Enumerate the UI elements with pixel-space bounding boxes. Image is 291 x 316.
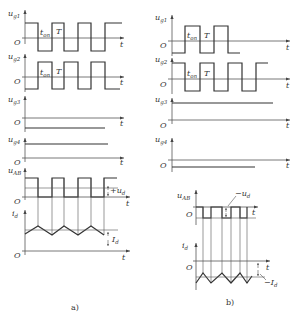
t-axis-label: t xyxy=(266,263,270,272)
id-plot-a: id Id O t xyxy=(12,209,130,262)
ug4-plot-b: ug4 O t xyxy=(155,135,290,172)
ug3-label: ug3 xyxy=(155,95,168,106)
t-axis-label: t xyxy=(252,208,256,217)
id-label: id xyxy=(12,209,19,219)
origin-label: O xyxy=(160,41,167,50)
t-axis-label: t xyxy=(120,119,124,128)
ton-label: ton xyxy=(40,68,51,78)
ug4-label: ug4 xyxy=(155,135,168,146)
ug2-plot-b: ug2 O t ton T xyxy=(155,55,290,94)
origin-label: O xyxy=(160,80,167,89)
t-axis-label: t xyxy=(120,158,124,167)
t-axis-label: t xyxy=(286,121,290,130)
ug3-plot-b: ug3 O t xyxy=(155,95,290,130)
period-label: T xyxy=(204,31,210,40)
ton-label: ton xyxy=(187,31,198,41)
ug2-label: ug2 xyxy=(8,52,21,63)
t-axis-label: t xyxy=(122,253,126,262)
origin-label: O xyxy=(160,121,167,130)
caption-a: a) xyxy=(71,303,79,312)
origin-label: O xyxy=(14,197,21,206)
panel-b: ug1 O t ton T ug2 O t ton T ug3 O t xyxy=(155,13,290,307)
id-plot-b: id −Id O t xyxy=(182,241,278,290)
guide-lines-a xyxy=(38,178,104,235)
period-label: T xyxy=(204,69,210,78)
ud-label: −ud xyxy=(235,189,251,199)
ud-label: +ud xyxy=(110,186,126,196)
origin-label: O xyxy=(14,38,21,47)
ug1-plot-b: ug1 O t ton T xyxy=(155,13,290,56)
uab-plot-a: uAB +ud O t xyxy=(8,166,130,208)
uab-label: uAB xyxy=(177,191,190,201)
t-axis-label: t xyxy=(286,43,290,52)
ug4-plot-a: ug4 O t xyxy=(8,135,124,167)
t-axis-label: t xyxy=(286,81,290,90)
ug4-label: ug4 xyxy=(8,135,21,146)
caption-b: b) xyxy=(226,298,234,307)
ug3-plot-a: ug3 O t xyxy=(8,95,124,132)
t-axis-label: t xyxy=(126,199,130,208)
ug1-plot-a: ug1 O t ton T xyxy=(8,9,124,51)
origin-label: O xyxy=(186,210,193,219)
Id-label: −Id xyxy=(264,278,278,288)
ug2-plot-a: ug2 O t ton T xyxy=(8,52,124,92)
Id-label: Id xyxy=(111,235,119,245)
t-axis-label: t xyxy=(286,161,290,170)
panel-a: ug1 O t ton T ug2 O t ton T ug3 O t xyxy=(8,9,130,312)
id-label: id xyxy=(182,241,189,251)
ton-label: ton xyxy=(40,28,51,38)
uab-plot-b: uAB −ud O t xyxy=(177,189,258,225)
waveform-diagram: ug1 O t ton T ug2 O t ton T ug3 O t xyxy=(0,0,291,316)
period-label: T xyxy=(56,27,62,36)
origin-label: O xyxy=(160,161,167,170)
uab-label: uAB xyxy=(8,166,21,176)
origin-label: O xyxy=(186,263,193,272)
ug1-label: ug1 xyxy=(8,9,20,20)
ug1-label: ug1 xyxy=(155,13,167,24)
origin-label: O xyxy=(14,77,21,86)
origin-label: O xyxy=(14,251,21,260)
t-axis-label: t xyxy=(120,78,124,87)
ton-label: ton xyxy=(187,69,198,79)
ug2-label: ug2 xyxy=(155,55,168,66)
ug3-label: ug3 xyxy=(8,95,21,106)
origin-label: O xyxy=(14,118,21,127)
period-label: T xyxy=(56,67,62,76)
t-axis-label: t xyxy=(120,40,124,49)
origin-label: O xyxy=(14,158,21,167)
